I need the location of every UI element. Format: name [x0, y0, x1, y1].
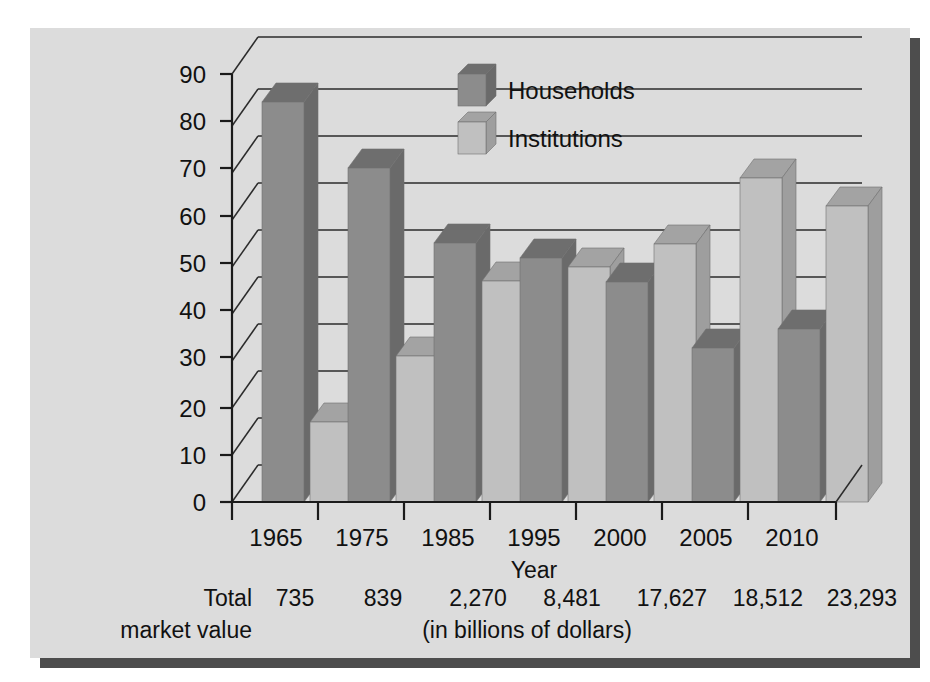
total-value-1975: 839 — [364, 585, 402, 611]
x-axis-title: Year — [511, 557, 558, 583]
bar-chart-figure: 90 80 70 60 50 40 30 20 10 0 1965 1975 1… — [0, 0, 930, 682]
total-market-value-label-line2: market value — [120, 617, 252, 643]
total-market-value-units-note: (in billions of dollars) — [422, 617, 632, 643]
x-tick-label-1975: 1975 — [335, 524, 388, 551]
total-value-1995: 8,481 — [543, 585, 601, 611]
x-tick-label-2010: 2010 — [765, 524, 818, 551]
bar-households-1995 — [520, 239, 576, 502]
x-tick-label-2000: 2000 — [593, 524, 646, 551]
y-tick-label: 40 — [179, 297, 206, 324]
bar-households-1965 — [262, 83, 318, 502]
x-tick-label-1985: 1985 — [421, 524, 474, 551]
bar-households-2010 — [778, 310, 834, 502]
y-tick-label: 60 — [179, 203, 206, 230]
legend-swatch-households — [458, 64, 496, 106]
total-value-1985: 2,270 — [449, 585, 507, 611]
total-market-value-label-line1: Total — [203, 585, 252, 611]
x-tick-label-1995: 1995 — [507, 524, 560, 551]
total-value-2005: 18,512 — [733, 585, 803, 611]
bar-households-2005 — [692, 329, 748, 502]
total-value-2000: 17,627 — [637, 585, 707, 611]
legend-label-institutions: Institutions — [508, 125, 623, 152]
bar-households-1985 — [434, 224, 490, 502]
x-tick-label-1965: 1965 — [249, 524, 302, 551]
y-tick-label: 50 — [179, 250, 206, 277]
total-value-2010: 23,293 — [827, 585, 897, 611]
total-value-1965: 735 — [276, 585, 314, 611]
y-tick-label: 10 — [179, 442, 206, 469]
bar-households-1975 — [348, 149, 404, 502]
legend-swatch-institutions — [458, 112, 496, 154]
bar-institutions-2010 — [826, 187, 882, 502]
y-tick-label: 20 — [179, 395, 206, 422]
y-tick-label: 30 — [179, 344, 206, 371]
bar-households-2000 — [606, 263, 662, 502]
x-tick-label-2005: 2005 — [679, 524, 732, 551]
y-tick-label: 70 — [179, 155, 206, 182]
y-tick-label: 90 — [179, 61, 206, 88]
y-tick-label: 0 — [193, 489, 206, 516]
y-tick-label: 80 — [179, 108, 206, 135]
legend-label-households: Households — [508, 77, 635, 104]
